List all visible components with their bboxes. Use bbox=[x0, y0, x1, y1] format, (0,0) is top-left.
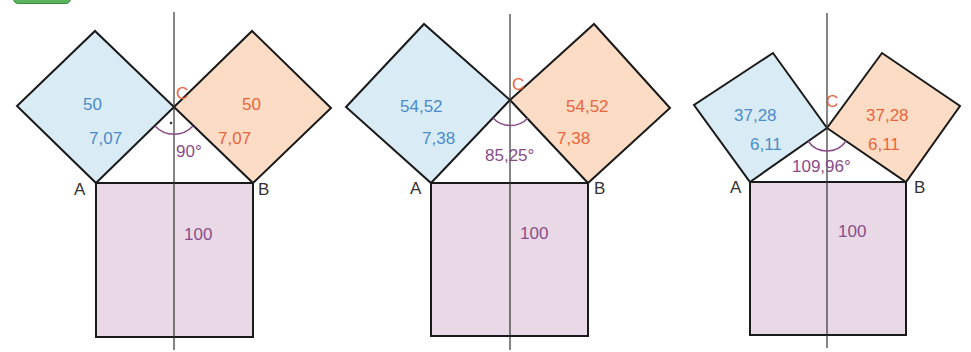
pythagoras-diagrams: C A B 50 7,07 50 7,07 90° 100 C A B 54,5… bbox=[0, 0, 971, 352]
vertex-c-label: C bbox=[512, 75, 524, 94]
vertex-b-label: B bbox=[594, 179, 605, 198]
bottom-area-label: 100 bbox=[520, 224, 548, 243]
right-side-label: 7,07 bbox=[218, 129, 251, 148]
right-area-label: 54,52 bbox=[566, 97, 609, 116]
vertex-c-label: C bbox=[176, 84, 188, 103]
vertex-a-label: A bbox=[730, 178, 742, 197]
right-side-label: 6,11 bbox=[868, 135, 900, 154]
left-area-label: 54,52 bbox=[400, 97, 443, 116]
vertex-c-label: C bbox=[826, 92, 838, 111]
right-area-label: 50 bbox=[242, 95, 261, 114]
left-area-label: 50 bbox=[83, 95, 102, 114]
right-angle-dot bbox=[170, 122, 173, 125]
angle-label: 109,96° bbox=[792, 157, 851, 176]
right-side-label: 7,38 bbox=[557, 129, 590, 148]
bottom-area-label: 100 bbox=[838, 222, 866, 241]
right-area-label: 37,28 bbox=[866, 106, 909, 125]
angle-label: 90° bbox=[176, 142, 202, 161]
left-side-label: 6,11 bbox=[750, 135, 782, 154]
vertex-a-label: A bbox=[74, 180, 86, 199]
vertex-a-label: A bbox=[410, 179, 422, 198]
left-side-label: 7,38 bbox=[422, 129, 455, 148]
angle-label: 85,25° bbox=[485, 146, 534, 165]
left-area-label: 37,28 bbox=[734, 106, 777, 125]
left-side-label: 7,07 bbox=[89, 129, 122, 148]
bottom-square bbox=[750, 182, 906, 335]
bottom-area-label: 100 bbox=[184, 225, 212, 244]
vertex-b-label: B bbox=[258, 180, 269, 199]
vertex-b-label: B bbox=[914, 178, 925, 197]
